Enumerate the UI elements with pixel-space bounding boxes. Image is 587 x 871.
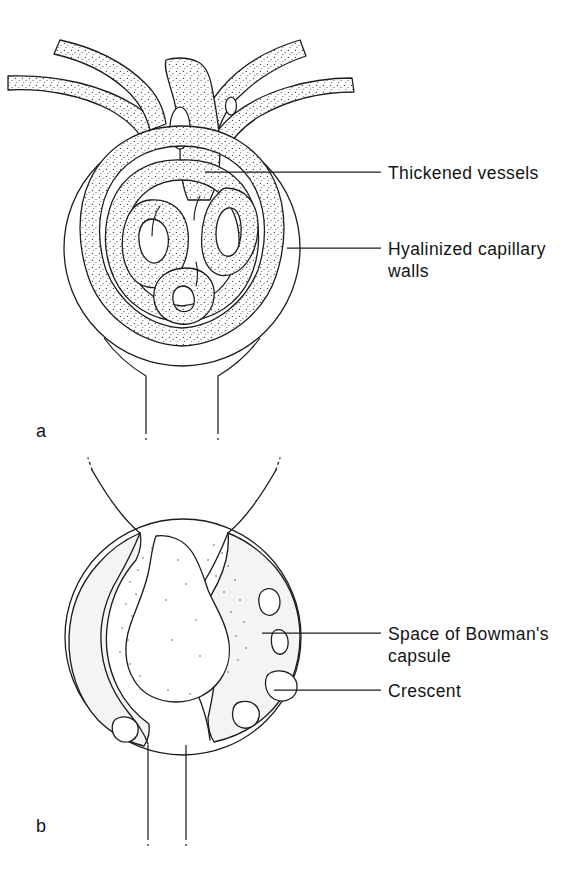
label-hyalinized-capillary-walls: Hyalinized capillary walls — [287, 239, 546, 281]
label-text-space-of-bowmans-capsule-line1: Space of Bowman's — [388, 624, 549, 644]
label-text-hyalinized-capillary-walls-line2: walls — [387, 261, 429, 281]
efferent-arteriole-fade-b — [276, 458, 280, 470]
panel-a: Thickened vessels Hyalinized capillary w… — [8, 40, 546, 444]
label-text-space-of-bowmans-capsule-line2: capsule — [388, 646, 451, 666]
crescent-nucleus-4-b — [233, 701, 260, 728]
label-text-hyalinized-capillary-walls-line1: Hyalinized capillary — [388, 239, 546, 259]
panel-b: Space of Bowman's capsule Crescent b — [36, 458, 549, 850]
panel-letter-a: a — [36, 421, 47, 441]
label-crescent: Crescent — [274, 681, 461, 701]
panel-letter-b: b — [36, 816, 46, 836]
afferent-arteriole-fade-b — [88, 458, 92, 470]
label-text-thickened-vessels: Thickened vessels — [388, 163, 539, 183]
figure-root: Thickened vessels Hyalinized capillary w… — [0, 0, 587, 871]
efferent-arteriole-b — [228, 470, 276, 533]
label-space-of-bowmans-capsule: Space of Bowman's capsule — [262, 624, 549, 666]
crescent-nucleus-3-b — [265, 671, 297, 701]
afferent-arteriole-b — [92, 470, 140, 533]
vessel-lumen-small-a — [226, 97, 237, 115]
crescent-nucleus-1-b — [259, 589, 280, 616]
kidney-glomerulus-figure: Thickened vessels Hyalinized capillary w… — [0, 0, 587, 871]
crescent-left-nucleus-b — [112, 717, 138, 742]
label-text-crescent: Crescent — [388, 681, 461, 701]
